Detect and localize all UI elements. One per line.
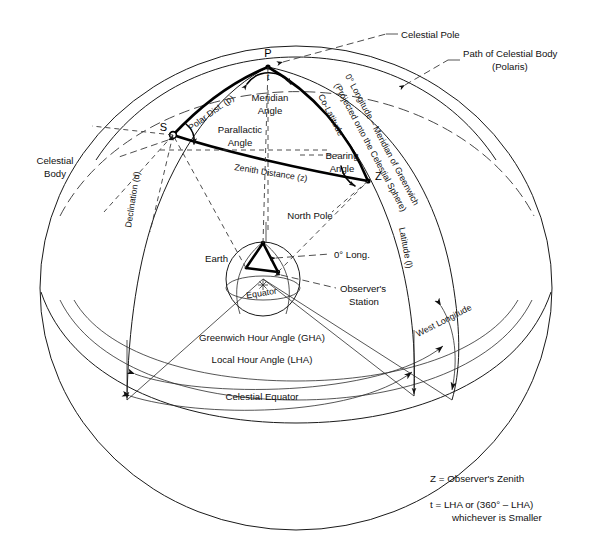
label-parallactic-angle-1: Parallactic <box>218 124 262 135</box>
label-celestial-equator: Celestial Equator <box>225 391 299 402</box>
point-label-p: P <box>264 47 271 59</box>
label-bearing-angle-2: Angle <box>330 163 355 174</box>
label-zero-longitude-1: 0° Longitude – Meridian of Greenwich <box>343 72 421 207</box>
diagram-canvas: P S Z t <box>0 0 594 539</box>
label-earth: Earth <box>205 253 228 264</box>
dash-center-to-body <box>173 135 246 268</box>
earth-arc-to-station <box>263 243 278 272</box>
earth-arc-base <box>246 268 278 272</box>
leader-zero-long <box>276 254 330 258</box>
celestial-sphere-outline <box>40 46 552 530</box>
label-declination: Declination (d) <box>123 171 142 229</box>
legend-line-2: t = LHA or (360° – LHA) <box>430 499 533 510</box>
label-equator: Equator <box>246 286 278 301</box>
celestial-sphere-diagram: P S Z t <box>0 0 594 539</box>
label-lha: Local Hour Angle (LHA) <box>212 354 313 365</box>
earth-meridian-left <box>237 242 263 314</box>
earth-arc-to-body-foot <box>246 243 263 268</box>
dash-zenith-lower <box>332 181 368 212</box>
label-celestial-body-1: Celestial <box>37 155 74 166</box>
greenwich-meridian-curve <box>268 67 459 400</box>
label-bearing-angle-1: Bearing <box>325 150 358 161</box>
label-observers-station-1: Observer's <box>340 283 386 294</box>
point-label-s: S <box>160 121 167 133</box>
label-zero-longitude-2: (Projected onto the Celestial Sphere) <box>332 81 409 213</box>
latitude-meridian-curve <box>268 67 414 396</box>
label-meridian-angle-2: Angle <box>258 105 283 116</box>
label-north-pole: North Pole <box>287 210 332 221</box>
label-celestial-body-2: Body <box>44 168 66 179</box>
label-latitude: Latitude (l) <box>397 226 415 269</box>
label-meridian-angle-1: Meridian <box>252 92 289 103</box>
label-gha: Greenwich Hour Angle (GHA) <box>199 332 325 343</box>
legend-line-1: Z = Observer's Zenith <box>430 473 524 484</box>
legend-line-3: whichever is Smaller <box>451 512 543 523</box>
label-celestial-pole: Celestial Pole <box>401 29 460 40</box>
leader-celestial-pole <box>283 34 386 62</box>
label-observers-station-2: Station <box>349 296 379 307</box>
label-path-of-celestial-body-1: Path of Celestial Body <box>463 48 558 59</box>
label-west-longitude: West Longitude <box>414 302 473 339</box>
label-parallactic-angle-2: Angle <box>228 137 253 148</box>
label-path-of-celestial-body-2: (Polaris) <box>492 61 528 72</box>
label-zenith-distance: Zenith Distance (z) <box>234 162 309 183</box>
label-zero-long: 0° Long. <box>334 249 370 260</box>
